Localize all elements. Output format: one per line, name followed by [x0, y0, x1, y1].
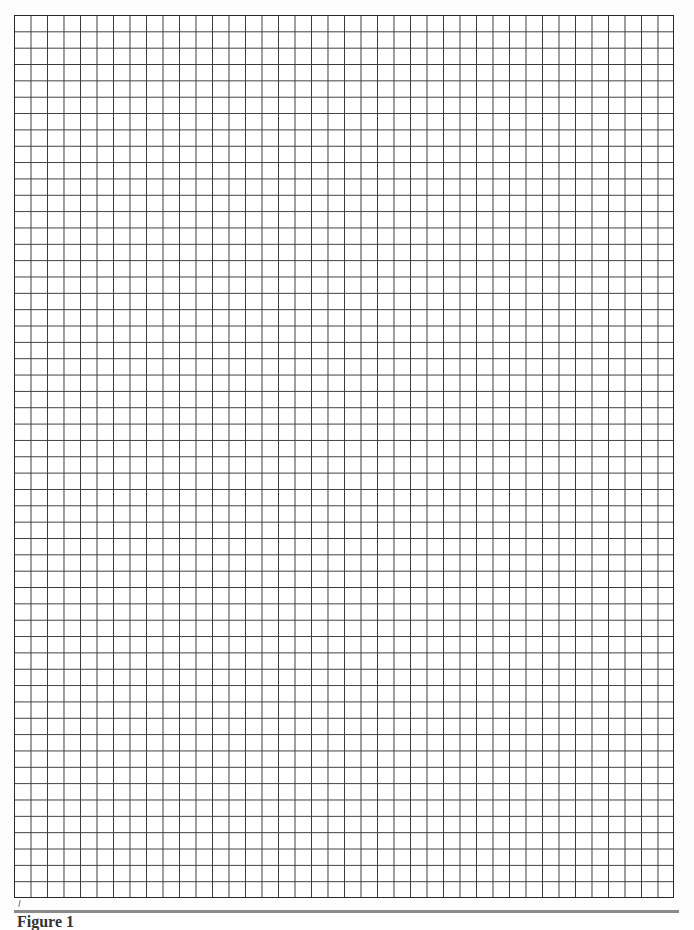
corner-tick-mark	[18, 900, 20, 907]
graph-grid	[14, 15, 674, 898]
horizontal-rule	[14, 910, 679, 913]
figure-caption: Figure 1	[17, 914, 74, 930]
